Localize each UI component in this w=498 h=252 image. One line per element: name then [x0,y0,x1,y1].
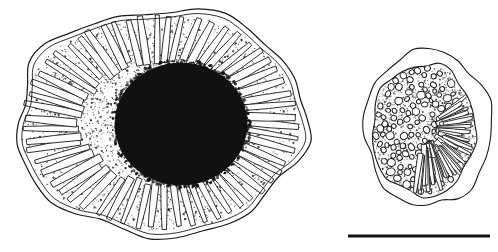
figure-root [0,0,498,252]
figure-canvas [0,0,498,252]
